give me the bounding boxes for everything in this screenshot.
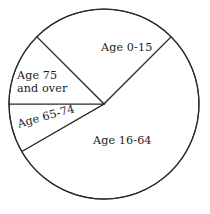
slice-label-age-0-15: Age 0-15 bbox=[101, 41, 152, 54]
slice-label-age-75-and-over: Age 75and over bbox=[17, 69, 67, 95]
pie-chart-svg bbox=[0, 0, 210, 214]
slice-label-age-75-line2: and over bbox=[17, 82, 67, 95]
slice-label-age-75-line1: Age 75 bbox=[17, 69, 57, 82]
pie-chart-figure: Age 0-15 Age 75and over Age 65-74 Age 16… bbox=[0, 0, 210, 214]
slice-label-age-16-64: Age 16-64 bbox=[93, 134, 152, 147]
pie-slice-group bbox=[9, 9, 199, 199]
